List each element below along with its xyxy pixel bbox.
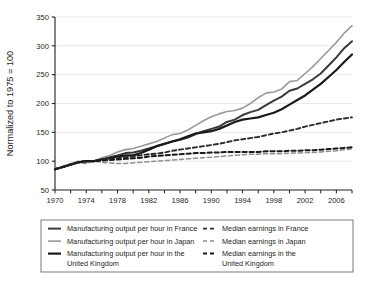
series-line-1 bbox=[55, 26, 352, 170]
y-tick-label: 250 bbox=[36, 70, 49, 79]
legend-label-line: United Kingdom bbox=[67, 259, 119, 268]
legend-item[interactable]: Manufacturing output per hour in France bbox=[48, 224, 197, 233]
series-group bbox=[55, 26, 352, 170]
y-axis-title: Normalized to 1975 = 100 bbox=[5, 51, 15, 156]
legend-label-line: Manufacturing output per hour in the bbox=[67, 249, 185, 258]
x-tick-label: 1986 bbox=[172, 196, 189, 205]
line-chart: 5010015020025030035019701974197819821986… bbox=[0, 0, 366, 288]
y-tick-label: 200 bbox=[36, 99, 49, 108]
x-tick-label: 2002 bbox=[297, 196, 314, 205]
x-tick-label: 1982 bbox=[140, 196, 157, 205]
x-tick-label: 1990 bbox=[203, 196, 220, 205]
legend-label: Manufacturing output per hour in France bbox=[67, 224, 197, 233]
y-tick-label: 50 bbox=[41, 186, 49, 195]
legend-item[interactable]: Manufacturing output per hour in Japan bbox=[48, 237, 194, 246]
legend-label-line: Median earnings in the bbox=[222, 249, 296, 258]
x-tick-label: 1974 bbox=[78, 196, 95, 205]
chart-figure: 5010015020025030035019701974197819821986… bbox=[0, 0, 366, 288]
grid-lines bbox=[55, 17, 352, 161]
axes: 5010015020025030035019701974197819821986… bbox=[36, 13, 352, 205]
legend-label-line: United Kingdom bbox=[222, 259, 274, 268]
y-tick-label: 300 bbox=[36, 42, 49, 51]
x-tick-label: 1994 bbox=[234, 196, 251, 205]
y-tick-label: 150 bbox=[36, 128, 49, 137]
y-tick-label: 100 bbox=[36, 157, 49, 166]
legend-label: Median earnings in France bbox=[222, 224, 308, 233]
x-tick-label: 2006 bbox=[328, 196, 345, 205]
y-tick-label: 350 bbox=[36, 13, 49, 22]
legend-label: Median earnings in Japan bbox=[222, 237, 306, 246]
x-tick-label: 1998 bbox=[265, 196, 282, 205]
x-tick-label: 1970 bbox=[47, 196, 64, 205]
legend: Manufacturing output per hour in FranceM… bbox=[41, 220, 353, 272]
x-tick-label: 1978 bbox=[109, 196, 126, 205]
legend-label: Manufacturing output per hour in Japan bbox=[67, 237, 194, 246]
